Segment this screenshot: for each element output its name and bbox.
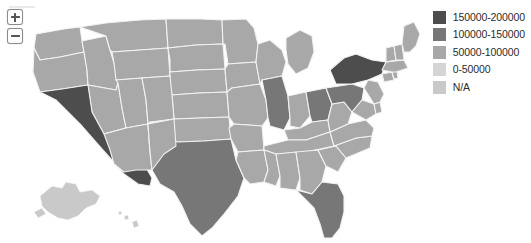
state-HI-3[interactable]: [118, 211, 122, 215]
state-HI[interactable]: [132, 220, 139, 228]
state-NJ[interactable]: [364, 80, 384, 104]
state-NY[interactable]: [330, 54, 386, 84]
map-zoom-controls: [7, 9, 23, 44]
inset-layer: [34, 182, 139, 228]
us-states-choropleth[interactable]: [0, 0, 420, 243]
state-MO[interactable]: [227, 84, 268, 126]
state-KS[interactable]: [172, 92, 229, 119]
legend-item[interactable]: 0-50000: [433, 63, 525, 77]
state-WY[interactable]: [112, 48, 170, 80]
map-canvas[interactable]: [0, 0, 420, 243]
legend-item-label: 100000-150000: [453, 29, 525, 40]
state-IL[interactable]: [262, 76, 290, 130]
state-AK[interactable]: [40, 182, 100, 220]
plus-icon: [11, 13, 20, 22]
legend-swatch-icon: [433, 28, 446, 41]
legend-swatch-icon: [433, 46, 446, 59]
state-MN[interactable]: [222, 19, 258, 64]
legend-item-label: 150000-200000: [453, 12, 525, 23]
legend-swatch-icon: [433, 81, 446, 94]
state-MI[interactable]: [286, 30, 314, 74]
state-SD[interactable]: [168, 44, 225, 72]
legend-swatch-icon: [433, 63, 446, 76]
state-AK-tail[interactable]: [34, 208, 46, 218]
legend-item[interactable]: 100000-150000: [433, 28, 525, 42]
legend-item-label: N/A: [453, 82, 470, 93]
legend-item[interactable]: 150000-200000: [433, 10, 525, 24]
map-legend: 150000-200000 100000-150000 50000-100000…: [433, 10, 525, 98]
state-NE[interactable]: [170, 69, 227, 95]
legend-item-label: 50000-100000: [453, 47, 520, 58]
legend-item[interactable]: 50000-100000: [433, 45, 525, 59]
state-HI-2[interactable]: [124, 215, 129, 220]
state-ME[interactable]: [402, 22, 420, 52]
legend-item[interactable]: N/A: [433, 80, 525, 94]
state-ND[interactable]: [166, 19, 223, 48]
minus-icon: [11, 32, 20, 41]
zoom-in-button[interactable]: [7, 9, 23, 25]
legend-item-label: 0-50000: [453, 64, 491, 75]
state-AR[interactable]: [229, 124, 264, 152]
zoom-out-button[interactable]: [7, 28, 23, 44]
legend-swatch-icon: [433, 11, 446, 24]
choropleth-map-widget: 150000-200000 100000-150000 50000-100000…: [0, 0, 531, 243]
